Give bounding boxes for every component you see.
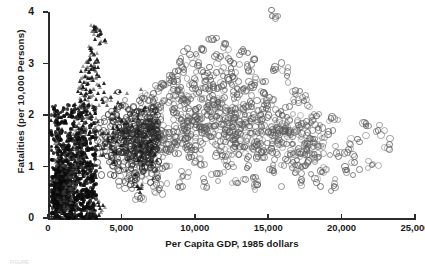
data-point-circle [181, 122, 188, 129]
data-point-circle [202, 84, 209, 91]
data-point-circle [123, 124, 130, 131]
data-point-dense [71, 208, 75, 212]
data-point-triangle [57, 141, 61, 145]
data-point-circle [150, 122, 156, 128]
data-point-dense [62, 190, 65, 193]
data-point-circle [158, 138, 165, 145]
data-point-triangle [74, 173, 78, 177]
data-point-circle [258, 128, 264, 134]
data-point-dense [57, 189, 60, 192]
data-point-triangle [66, 205, 70, 209]
data-point-dense [57, 190, 61, 194]
data-point-triangle [57, 161, 61, 165]
data-point-triangle [72, 173, 76, 177]
data-point-dense [82, 201, 85, 204]
data-point-dense [54, 104, 57, 107]
data-point-circle [144, 134, 151, 141]
data-point-dense [64, 179, 68, 183]
data-point-dense [73, 178, 77, 182]
data-point-dense [58, 183, 62, 187]
data-point-circle [190, 93, 197, 100]
data-point-dense [57, 187, 61, 191]
data-point-circle [148, 127, 155, 134]
data-point-circle [152, 190, 158, 196]
data-point-dense [59, 195, 62, 198]
data-point-dense [57, 215, 60, 218]
data-point-circle [204, 123, 210, 129]
data-point-dense [56, 183, 59, 186]
data-point-circle [151, 166, 157, 172]
data-point-dense [56, 197, 60, 201]
data-point-dense [56, 195, 60, 199]
data-point-dense [75, 183, 78, 186]
data-point-dense [64, 200, 67, 203]
data-point-dense [58, 189, 61, 192]
data-point-dense [56, 193, 60, 197]
data-point-circle [284, 114, 290, 120]
data-point-dense [87, 164, 91, 168]
data-point-circle [228, 69, 235, 76]
data-point-circle [262, 90, 268, 96]
data-point-triangle [135, 184, 139, 188]
data-point-dense [55, 146, 59, 150]
data-point-circle [149, 118, 155, 124]
data-point-dense [91, 203, 95, 207]
data-point-triangle [86, 103, 90, 107]
data-point-triangle [94, 213, 98, 217]
data-point-triangle [106, 134, 110, 138]
data-point-dense [55, 178, 58, 181]
data-point-circle [107, 139, 113, 145]
data-point-triangle [67, 169, 71, 173]
data-point-dense [83, 137, 87, 141]
data-point-circle [154, 174, 160, 180]
data-point-triangle [77, 108, 81, 112]
data-point-circle [248, 130, 255, 137]
data-point-triangle [65, 208, 69, 212]
data-point-circle [304, 140, 311, 147]
data-point-dense [57, 185, 61, 189]
data-point-circle [286, 128, 293, 135]
data-point-dense [58, 188, 61, 191]
data-point-triangle [143, 107, 147, 111]
data-point-triangle [117, 127, 121, 131]
data-point-circle [219, 95, 225, 101]
data-point-dense [56, 122, 60, 126]
data-point-circle [248, 103, 255, 110]
data-point-circle [309, 127, 315, 133]
data-point-dense [59, 122, 62, 125]
data-point-circle [150, 111, 156, 117]
data-point-dense [88, 137, 92, 141]
data-point-triangle [59, 115, 63, 119]
data-point-dense [76, 115, 79, 118]
data-point-circle [223, 119, 230, 126]
data-point-triangle [63, 184, 67, 188]
data-point-triangle [154, 168, 158, 172]
data-point-circle [146, 114, 153, 121]
data-point-triangle [59, 176, 63, 180]
data-point-circle [386, 135, 393, 142]
data-point-dense [68, 213, 71, 216]
data-point-circle [147, 148, 153, 154]
data-point-circle [242, 150, 249, 157]
data-point-dense [66, 169, 70, 173]
data-point-dense [60, 201, 64, 205]
data-point-dense [59, 204, 62, 207]
data-point-dense [58, 193, 62, 197]
data-point-circle [151, 143, 157, 149]
data-point-dense [54, 184, 57, 187]
data-point-dense [60, 187, 63, 190]
data-point-circle [198, 85, 204, 91]
data-point-dense [61, 193, 65, 197]
data-point-triangle [56, 175, 60, 179]
data-point-triangle [64, 175, 68, 179]
data-point-circle [282, 104, 289, 111]
data-point-circle [269, 167, 276, 174]
data-point-circle [138, 119, 144, 125]
data-point-triangle [121, 137, 125, 141]
data-point-circle [167, 145, 173, 151]
data-point-circle [148, 125, 154, 131]
data-point-dense [62, 197, 65, 200]
data-point-dense [59, 137, 62, 140]
data-point-dense [81, 173, 84, 176]
data-point-triangle [149, 139, 153, 143]
